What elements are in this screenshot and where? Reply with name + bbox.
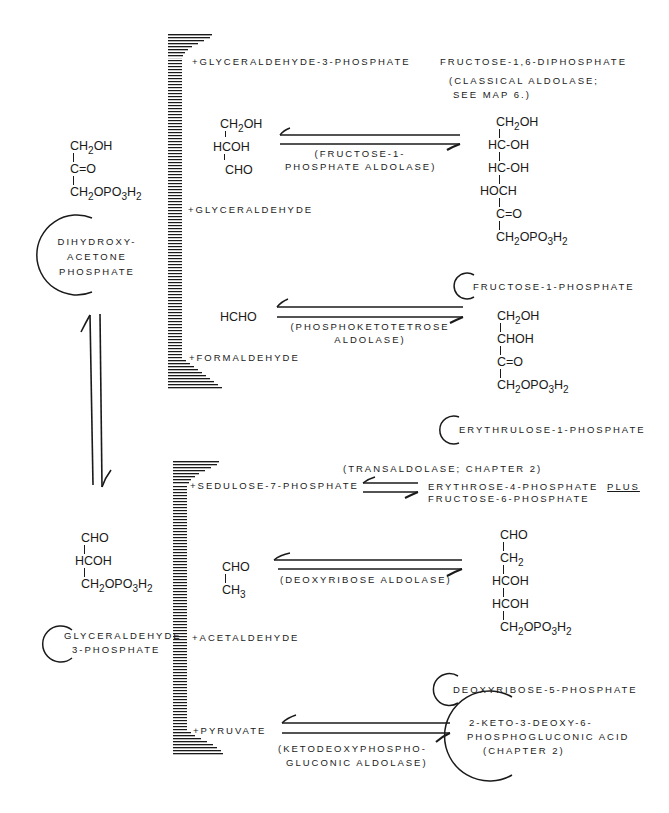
enzyme-line: see map 6.)	[449, 88, 599, 102]
deoxyribose-5-phosphate-label: Deoxyribose-5-phosphate	[453, 684, 638, 695]
phosphoketotetrose-aldolase-label: (phosphoketotetrose aldolase)	[280, 320, 460, 346]
name-line: 3-Phosphate	[64, 643, 182, 657]
formula-line: CH3	[222, 583, 246, 597]
dhap-name: Dihydroxy- acetone Phosphate	[52, 234, 142, 279]
formula-line: HOCH	[480, 184, 517, 198]
formula-line: CH2OPO3H2	[496, 230, 568, 244]
formula-line: CHO	[500, 528, 528, 542]
enzyme-line: phosphate aldolase)	[285, 160, 435, 173]
formula-line: HCOH	[75, 554, 112, 568]
name-line: acetone	[52, 249, 142, 264]
formula-line: CHO	[222, 560, 250, 574]
fructose-1-phosphate-label: Fructose-1-phosphate	[473, 281, 635, 292]
deoxyribose-5-phosphate-formula: CHO CH2 HCOH HCOH CH2OPO3H2	[492, 529, 572, 634]
fructose-1-phosphate-aldolase-label: (Fructose-1- phosphate aldolase)	[285, 147, 435, 173]
formula-line: CH2OH	[496, 115, 538, 129]
name-line: (Chapter 2)	[467, 744, 629, 758]
formula-line: C=O	[70, 162, 96, 176]
name-line: Glyceraldehyde	[64, 629, 182, 643]
formula-line: CH2OH	[220, 117, 262, 131]
formula-line: CHO	[81, 531, 109, 545]
formula-line: CH2OPO3H2	[500, 620, 572, 634]
formula-line: HCOH	[213, 140, 250, 154]
enzyme-line: gluconic aldolase)	[278, 756, 428, 770]
bracket-item-pyruvate: +Pyruvate	[193, 725, 266, 736]
formaldehyde-formula: HCHO	[220, 311, 257, 324]
enzyme-line: (classical aldolase;	[449, 74, 599, 88]
erythrose-4-phosphate-label: Erythrose-4-phosphate	[428, 481, 598, 492]
formula-line: HC-OH	[488, 138, 529, 152]
glyceraldehyde-formula: CH2OH HCOH CHO	[213, 118, 262, 177]
fructose-1-phosphate-formula: CH2OH HC-OH HC-OH HOCH C=O CH2OPO3H2	[480, 116, 568, 244]
bracket-item-formaldehyde: +Formaldehyde	[189, 352, 300, 363]
erythrulose-1-phosphate-label: Erythrulose-1-phosphate	[459, 424, 646, 435]
bracket-item-glyceraldehyde-3-phosphate: +Glyceraldehyde-3-phosphate	[192, 56, 411, 67]
fructose-1-phosphate-circle-icon	[454, 273, 474, 299]
formula-line: C=O	[496, 207, 522, 221]
formula-line: CH2OPO3H2	[497, 378, 569, 392]
name-line: phosphogluconic acid	[467, 730, 629, 744]
enzyme-line: aldolase)	[280, 333, 460, 346]
fructose-16-diphosphate-label: Fructose-1,6-diphosphate	[440, 56, 627, 67]
ketodeoxyphosphogluconic-aldolase-label: (Ketodeoxyphospho- gluconic aldolase)	[278, 742, 428, 770]
dhap-formula: CH2OH C=O CH2OPO3H2	[70, 140, 142, 199]
name-line: Dihydroxy-	[52, 234, 142, 249]
acetaldehyde-formula: CHO CH3	[222, 561, 250, 597]
isomerase-equilibrium-arrows	[81, 314, 111, 487]
formula-line: HCOH	[492, 597, 529, 611]
plus-label: plus	[607, 481, 640, 492]
bracket-item-acetaldehyde: +Acetaldehyde	[192, 632, 299, 643]
formula-line: CH2OH	[70, 139, 112, 153]
name-line: 2-Keto-3-deoxy-6-	[467, 716, 629, 730]
erythrulose-1-phosphate-formula: CH2OH CHOH C=O CH2OPO3H2	[497, 310, 569, 392]
formula-line: CH2OPO3H2	[81, 577, 153, 591]
lower-bracket	[173, 461, 223, 754]
formula-line: CHO	[225, 163, 253, 177]
transaldolase-label: (transaldolase; Chapter 2)	[343, 463, 542, 474]
fructose-6-phosphate-label: Fructose-6-phosphate	[428, 493, 640, 505]
arrow-transaldolase	[363, 477, 418, 498]
formula-line: HC-OH	[488, 161, 529, 175]
deoxyribose-aldolase-label: (Deoxyribose aldolase)	[280, 574, 452, 585]
g3p-formula: CHO HCOH CH2OPO3H2	[75, 532, 153, 591]
formula-line: CHOH	[497, 332, 534, 346]
formula-line: C=O	[497, 355, 523, 369]
bracket-item-glyceraldehyde: +Glyceraldehyde	[188, 204, 313, 215]
enzyme-line: (phosphoketotetrose	[280, 320, 460, 333]
arrow-ketodeoxyphosphogluconic-aldolase	[282, 715, 450, 742]
formula-line: CH2OH	[497, 309, 539, 323]
name-line: Phosphate	[52, 264, 142, 279]
formula-line: HCOH	[492, 574, 529, 588]
erythrulose-1-phosphate-circle-icon	[440, 416, 459, 444]
enzyme-line: (Ketodeoxyphospho-	[278, 742, 428, 756]
bracket-item-sedulose-7-phosphate: +Sedulose-7-phosphate	[190, 480, 359, 491]
transaldolase-products: Erythrose-4-phosphate plus Fructose-6-ph…	[428, 481, 640, 505]
enzyme-line: (Fructose-1-	[285, 147, 435, 160]
formula-line: CH2	[500, 551, 524, 565]
kdpg-label: 2-Keto-3-deoxy-6- phosphogluconic acid (…	[467, 716, 629, 758]
g3p-name: Glyceraldehyde 3-Phosphate	[64, 629, 182, 657]
arrow-deoxyribose-aldolase	[274, 553, 462, 576]
formula-line: CH2OPO3H2	[70, 185, 142, 199]
classical-aldolase-label: (classical aldolase; see map 6.)	[449, 74, 599, 102]
